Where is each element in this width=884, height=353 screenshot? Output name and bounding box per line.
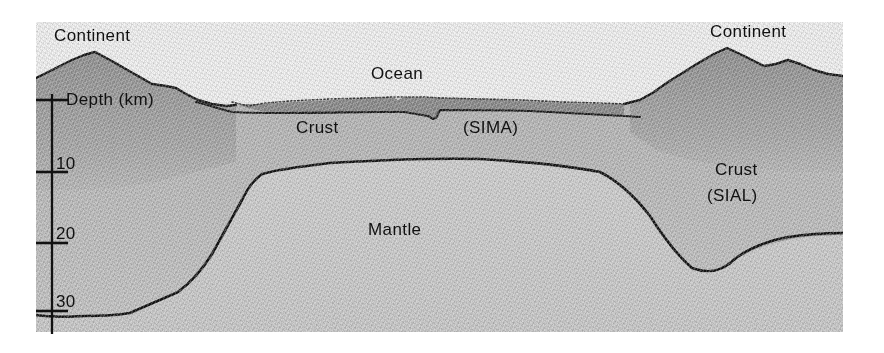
depth-tick-label-10: 10 [56,154,76,174]
label-sial: (SIAL) [707,186,758,206]
label-sima: (SIMA) [463,118,518,138]
figure-page: 10 20 30 Depth (km) Continent Continent … [0,0,884,353]
depth-tick-label-20: 20 [56,224,76,244]
label-ocean: Ocean [371,64,423,84]
label-crust-continental: Crust [715,160,758,180]
depth-tick-label-30: 30 [56,292,76,312]
label-continent-left: Continent [54,26,130,46]
label-continent-right: Continent [710,22,786,42]
label-crust-oceanic: Crust [296,118,339,138]
label-depth-axis: Depth (km) [66,90,154,110]
label-mantle: Mantle [368,220,421,240]
